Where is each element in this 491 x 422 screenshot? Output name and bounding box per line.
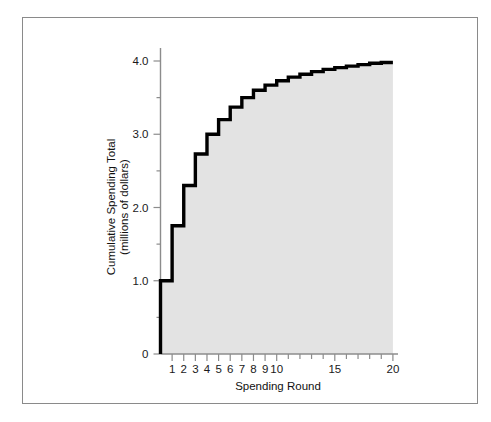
x-tick-label-1: 1 bbox=[169, 363, 175, 375]
x-tick-label-9: 9 bbox=[262, 363, 268, 375]
y-tick-label-3-0: 3.0 bbox=[133, 128, 149, 140]
y-tick-label-1-0: 1.0 bbox=[133, 275, 149, 287]
x-tick-label-7: 7 bbox=[239, 363, 245, 375]
y-axis-title-line-2: (millions of dollars) bbox=[118, 159, 130, 255]
x-tick-label-5: 5 bbox=[215, 363, 221, 375]
x-tick-label-20: 20 bbox=[387, 363, 400, 375]
chart-canvas: 01.02.03.04.0123456789101520 Spending Ro… bbox=[0, 0, 491, 422]
x-axis-title: Spending Round bbox=[235, 380, 321, 392]
cumulative-spending-step-chart: 01.02.03.04.0123456789101520 Spending Ro… bbox=[0, 0, 491, 422]
x-tick-label-15: 15 bbox=[328, 363, 341, 375]
x-tick-label-2: 2 bbox=[181, 363, 187, 375]
y-tick-label-0: 0 bbox=[142, 348, 148, 360]
cumulative-area-fill bbox=[161, 62, 393, 354]
x-tick-label-4: 4 bbox=[204, 363, 211, 375]
x-tick-label-3: 3 bbox=[192, 363, 198, 375]
x-tick-label-8: 8 bbox=[250, 363, 256, 375]
y-tick-label-2-0: 2.0 bbox=[133, 202, 149, 214]
x-tick-label-10: 10 bbox=[270, 363, 283, 375]
x-tick-label-6: 6 bbox=[227, 363, 233, 375]
area-fill bbox=[161, 62, 393, 354]
y-axis-title-line-1: Cumulative Spending Total bbox=[105, 139, 117, 276]
y-tick-label-4-0: 4.0 bbox=[133, 55, 149, 67]
